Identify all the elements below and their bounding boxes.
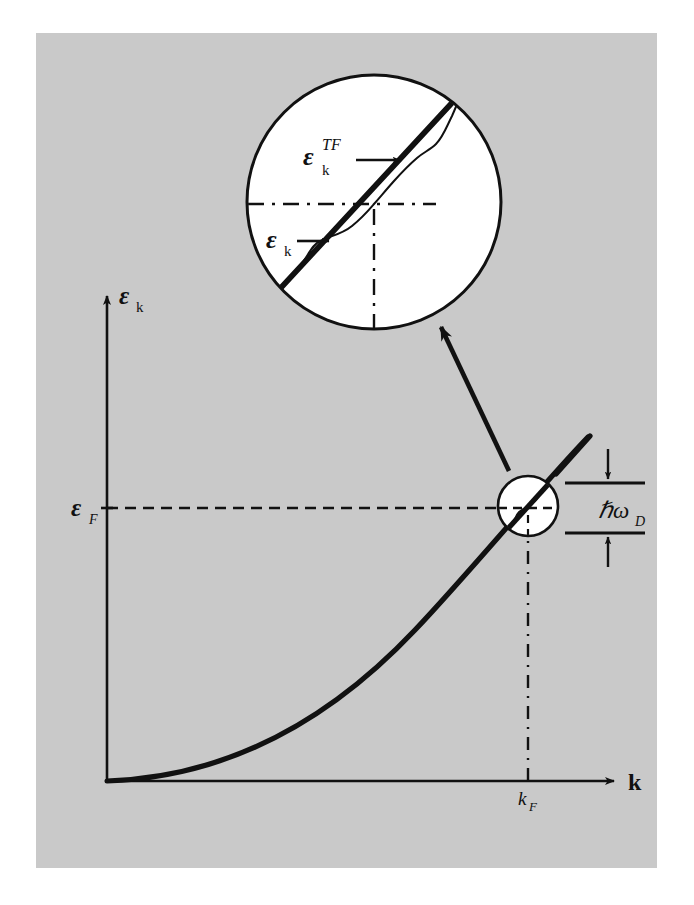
inset-tf-label-subscript: k (322, 162, 330, 178)
debye-energy-label-subscript: D (634, 514, 645, 529)
dispersion-figure: ε k k ε F k F ℏω D ε TF k ε k (0, 0, 694, 905)
fermi-wavevector-label-symbol: k (518, 788, 527, 809)
inset-ek-label-subscript: k (284, 243, 292, 259)
inset-tf-label-symbol: ε (303, 142, 314, 171)
inset-tf-label-superscript: TF (322, 136, 341, 153)
inset-ek-label-symbol: ε (266, 225, 277, 254)
y-axis-label-subscript: k (136, 299, 144, 315)
fermi-wavevector-label-subscript: F (528, 799, 538, 814)
figure-canvas: ε k k ε F k F ℏω D ε TF k ε k (0, 0, 694, 905)
x-axis-label: k (628, 769, 642, 795)
y-axis-label-symbol: ε (119, 282, 130, 309)
fermi-level-label-subscript: F (88, 512, 98, 527)
debye-energy-label-symbol: ℏω (598, 498, 629, 523)
fermi-level-label-symbol: ε (71, 494, 82, 521)
